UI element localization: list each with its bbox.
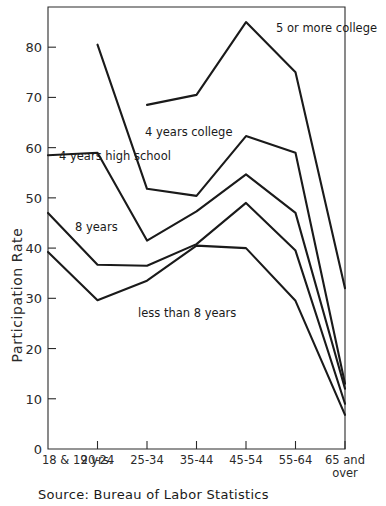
y-axis-title: Participation Rate [9, 228, 25, 363]
series-label: 8 years [75, 220, 118, 234]
chart-container: 01020304050607080 18 & 19 yrs.20-2425-34… [0, 0, 386, 506]
y-tick-label: 0 [34, 442, 42, 457]
y-tick-label: 40 [25, 241, 42, 256]
y-tick-label: 30 [25, 291, 42, 306]
x-tick-label: 65 and [325, 453, 365, 467]
source-note: Source: Bureau of Labor Statistics [38, 487, 269, 502]
x-tick-label: 25-34 [130, 453, 163, 467]
x-tick-label: 20-24 [81, 453, 114, 467]
series-label: less than 8 years [138, 306, 236, 320]
y-tick-label: 60 [25, 141, 42, 156]
y-tick-label: 10 [25, 392, 42, 407]
y-tick-label: 20 [25, 342, 42, 357]
y-tick-label: 50 [25, 191, 42, 206]
y-tick-label: 80 [25, 40, 42, 55]
series-label: 5 or more college [276, 21, 377, 35]
series-label: 4 years high school [59, 149, 171, 163]
x-tick-label-second-line: over [332, 466, 358, 480]
y-tick-label: 70 [25, 90, 42, 105]
series-label: 4 years college [145, 125, 232, 139]
participation-rate-line-chart: 01020304050607080 18 & 19 yrs.20-2425-34… [0, 0, 386, 506]
chart-background [0, 0, 386, 506]
x-tick-label: 35-44 [180, 453, 213, 467]
x-tick-label: 45-54 [229, 453, 262, 467]
x-tick-label: 55-64 [279, 453, 312, 467]
